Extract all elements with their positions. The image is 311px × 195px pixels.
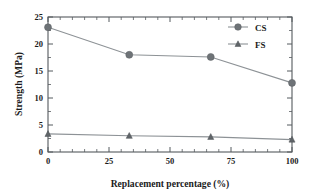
x-tick-label: 75 (227, 156, 236, 166)
plot-area-border (48, 17, 292, 152)
series-line-cs (48, 27, 292, 83)
y-axis-title: Strength (MPa) (13, 52, 25, 116)
legend-label-fs: FS (255, 40, 266, 50)
y-axis-ticks (48, 17, 292, 152)
legend-label-cs: CS (255, 23, 267, 33)
x-axis-ticks (48, 17, 292, 152)
y-tick-label: 0 (39, 147, 43, 157)
chart-legend: CSFS (228, 23, 267, 50)
x-axis-tick-labels: 0255075100 (46, 156, 299, 166)
y-tick-label: 20 (35, 39, 44, 49)
y-tick-label: 5 (39, 120, 43, 130)
x-tick-label: 100 (286, 156, 299, 166)
y-axis-tick-labels: 0510152025 (35, 12, 44, 157)
y-tick-label: 25 (35, 12, 44, 22)
series-cs (45, 24, 296, 87)
x-tick-label: 0 (46, 156, 50, 166)
x-axis-title: Replacement percentage (%) (111, 178, 230, 190)
y-tick-label: 10 (35, 93, 44, 103)
strength-vs-replacement-line-chart: 0255075100 0510152025 CSFS Replacement p… (0, 0, 311, 195)
data-point-cs (126, 51, 133, 58)
x-tick-label: 50 (166, 156, 175, 166)
x-tick-label: 25 (105, 156, 114, 166)
y-tick-label: 15 (35, 66, 44, 76)
data-point-cs (207, 53, 214, 60)
data-point-cs (45, 24, 52, 31)
chart-figure: 0255075100 0510152025 CSFS Replacement p… (0, 0, 311, 195)
data-point-cs (289, 79, 296, 86)
series-fs (45, 131, 295, 143)
circle-marker-icon (235, 24, 242, 31)
series-line-fs (48, 134, 292, 140)
plot-frame (48, 17, 292, 152)
